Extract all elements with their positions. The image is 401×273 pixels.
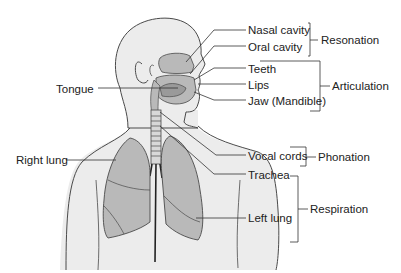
label-vocal-cords: Vocal cords [248, 150, 308, 162]
label-teeth: Teeth [248, 63, 276, 75]
label-trachea: Trachea [248, 169, 290, 181]
speech-anatomy-diagram: Nasal cavity Oral cavity Teeth Lips Jaw … [0, 0, 401, 273]
label-lips: Lips [248, 79, 269, 91]
group-label-resonation: Resonation [321, 34, 379, 46]
label-jaw: Jaw (Mandible) [248, 95, 326, 107]
group-label-articulation: Articulation [332, 80, 389, 92]
nasal-cavity-shape [159, 53, 194, 73]
label-right-lung: Right lung [16, 154, 68, 166]
label-oral-cavity: Oral cavity [248, 41, 303, 53]
label-left-lung: Left lung [248, 212, 292, 224]
label-tongue: Tongue [56, 83, 94, 95]
label-nasal-cavity: Nasal cavity [248, 24, 310, 36]
group-label-phonation: Phonation [318, 151, 370, 163]
group-label-respiration: Respiration [310, 203, 368, 215]
